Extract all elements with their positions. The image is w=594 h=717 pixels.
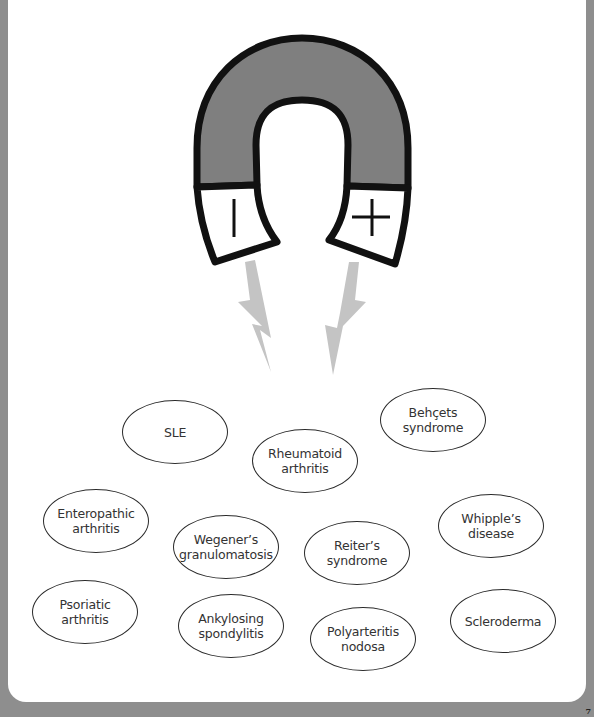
disease-ellipse-whipples-disease: Whipple’s disease <box>438 494 544 558</box>
disease-label: SLE <box>164 425 186 440</box>
lightning-bolt-icon <box>325 262 366 375</box>
disease-ellipse-psoriatic-arthritis: Psoriatic arthritis <box>32 580 138 644</box>
disease-ellipse-scleroderma: Scleroderma <box>450 589 556 653</box>
disease-ellipse-sle: SLE <box>122 400 228 464</box>
disease-label: Whipple’s disease <box>461 511 520 541</box>
page-number: 7 <box>585 706 591 716</box>
disease-ellipse-enteropathic-arthritis: Enteropathic arthritis <box>43 489 149 553</box>
disease-label: Enteropathic arthritis <box>57 506 134 536</box>
positive-pole <box>329 186 408 264</box>
lightning-bolt-icon <box>238 260 271 372</box>
disease-ellipse-wegeners-granulomatosis: Wegener’s granulomatosis <box>173 515 279 579</box>
disease-label: Polyarteritis nodosa <box>327 624 399 654</box>
disease-ellipse-reiters-syndrome: Reiter’s syndrome <box>304 521 410 585</box>
disease-ellipse-rheumatoid-arthritis: Rheumatoid arthritis <box>252 429 358 493</box>
negative-pole <box>197 185 277 262</box>
horseshoe-magnet-icon <box>197 38 408 264</box>
disease-label: Rheumatoid arthritis <box>268 446 342 476</box>
disease-label: Scleroderma <box>465 614 542 629</box>
disease-label: Psoriatic arthritis <box>59 597 110 627</box>
disease-ellipse-ankylosing-spondylitis: Ankylosing spondylitis <box>178 594 284 658</box>
disease-ellipse-behcets-syndrome: Behçets syndrome <box>380 388 486 452</box>
disease-label: Ankylosing spondylitis <box>198 611 264 641</box>
disease-label: Reiter’s syndrome <box>327 538 388 568</box>
disease-label: Wegener’s granulomatosis <box>179 532 273 562</box>
disease-label: Behçets syndrome <box>403 405 464 435</box>
disease-ellipse-polyarteritis-nodosa: Polyarteritis nodosa <box>310 607 416 671</box>
